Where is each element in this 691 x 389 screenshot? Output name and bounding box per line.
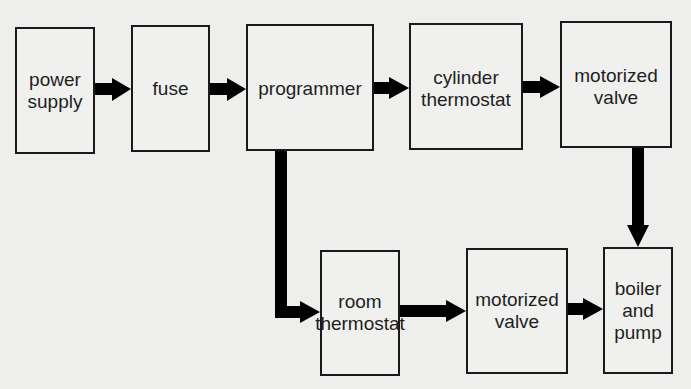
node-label-line: valve <box>475 311 558 333</box>
node-label-line: programmer <box>258 78 361 100</box>
node-label-line: motorized <box>475 289 558 311</box>
node-label-line: thermostat <box>421 89 511 111</box>
node-label-line: room <box>315 291 405 313</box>
arrow-cylinder-thermostat-to-motorized-valve <box>522 76 560 98</box>
node-label-line: valve <box>574 87 657 109</box>
node-room-thermostat: roomthermostat <box>320 250 400 376</box>
node-power-supply: powersupply <box>15 27 95 154</box>
node-label-line: motorized <box>574 65 657 87</box>
arrow-room-thermostat-to-motorized-valve <box>399 300 466 322</box>
node-label-line: boiler <box>614 278 662 300</box>
arrow-fuse-to-programmer <box>209 78 246 101</box>
node-label-line: thermostat <box>315 313 405 335</box>
node-label-line: power <box>28 69 83 91</box>
node-label-line: cylinder <box>421 67 511 89</box>
node-label-line: supply <box>28 91 83 113</box>
node-motorized-valve-bottom: motorizedvalve <box>466 248 568 374</box>
node-label-line: fuse <box>153 78 189 100</box>
arrow-motorized-valve-to-boiler <box>627 147 649 247</box>
node-fuse: fuse <box>131 25 210 152</box>
node-programmer: programmer <box>246 24 374 151</box>
arrow-programmer-to-cylinder-thermostat <box>373 77 409 99</box>
node-boiler-and-pump: boilerandpump <box>603 247 673 374</box>
arrow-programmer-to-room-thermostat <box>275 150 320 323</box>
arrow-power-supply-to-fuse <box>94 78 131 101</box>
node-motorized-valve-top: motorizedvalve <box>560 21 672 148</box>
node-label-line: pump <box>614 322 662 344</box>
node-label-line: and <box>614 300 662 322</box>
arrow-motorized-valve-to-boiler-bottom <box>567 298 603 320</box>
node-cylinder-thermostat: cylinderthermostat <box>409 23 523 150</box>
